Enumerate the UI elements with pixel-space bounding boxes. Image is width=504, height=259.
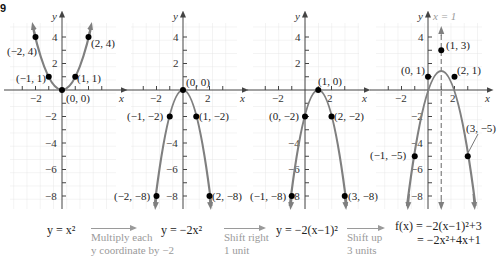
transform-step-1-line2: y coordinate by −2	[91, 244, 174, 257]
svg-text:−8: −8	[45, 190, 57, 202]
svg-text:x: x	[239, 92, 245, 104]
point-label: (2, 1)	[457, 64, 481, 77]
svg-text:−2: −2	[45, 110, 57, 122]
transform-step-2-line1: Shift right	[224, 231, 269, 244]
point	[46, 74, 52, 80]
point-label: (3, −5)	[466, 122, 496, 135]
panel-1-graph: x y −2 4 2 −2 −4 −6 −8 (−2, 4) (−1, 1) (…	[4, 10, 124, 209]
point-label: (0, 1)	[401, 64, 425, 77]
transform-arrow-3	[347, 228, 383, 229]
point-label: (−1, −5)	[370, 149, 407, 162]
point	[167, 114, 173, 120]
point-label: (2, −2)	[334, 110, 364, 123]
transform-step-3: Shift up 3 units	[347, 231, 382, 257]
point	[302, 114, 308, 120]
svg-text:−2: −2	[150, 92, 162, 104]
svg-text:x: x	[484, 92, 490, 104]
svg-text:2: 2	[295, 57, 301, 69]
transform-step-3-line1: Shift up	[347, 231, 382, 244]
point-label: (1, −2)	[199, 110, 229, 123]
transform-step-2: Shift right 1 unit	[224, 231, 269, 257]
axis-of-symmetry-label: x = 1	[432, 10, 456, 22]
svg-text:x: x	[361, 92, 367, 104]
equation-panel-1: y = x²	[47, 223, 75, 238]
svg-text:4: 4	[173, 31, 179, 43]
point-label: (0, 0)	[66, 92, 90, 105]
svg-text:−2: −2	[272, 92, 284, 104]
point	[425, 74, 431, 80]
equation-panel-4-line2: = −2x²+4x+1	[417, 233, 481, 248]
point	[342, 193, 348, 199]
svg-text:4: 4	[52, 31, 58, 43]
svg-text:−4: −4	[45, 137, 57, 149]
panel-3-graph: x y −2 2 4 2 −4 −6 −8 (1, 0) (0, −2) (2,…	[247, 10, 378, 209]
point-label: (1, 1)	[77, 72, 101, 85]
point-label: (−2, 4)	[7, 45, 37, 58]
point	[33, 34, 39, 40]
svg-text:2: 2	[52, 57, 58, 69]
point	[289, 193, 295, 199]
panel-2-graph: x y −2 2 4 2 −4 −6 −8 (0, 0) (−1, −2) (1…	[114, 10, 245, 209]
point-label: (0, −2)	[269, 110, 299, 123]
svg-text:4: 4	[418, 31, 424, 43]
point-label: (3, −8)	[348, 190, 378, 203]
point-label: (−2, −8)	[114, 190, 151, 203]
svg-text:−2: −2	[395, 92, 407, 104]
point	[154, 193, 160, 199]
svg-text:y: y	[172, 10, 178, 22]
transform-step-1-line1: Multiply each	[91, 231, 174, 244]
svg-text:y: y	[417, 10, 423, 22]
point-label: (0, 0)	[186, 76, 210, 89]
svg-text:4: 4	[295, 31, 301, 43]
y-axis-label: y	[51, 10, 57, 22]
transform-step-2-line2: 1 unit	[224, 244, 269, 257]
point-label: (2, −8)	[212, 190, 242, 203]
svg-text:−6: −6	[45, 163, 57, 175]
x-axis-label: x	[118, 92, 124, 104]
point-label: (−1, −8)	[250, 190, 287, 203]
svg-text:−6: −6	[166, 163, 178, 175]
svg-text:y: y	[294, 10, 300, 22]
point-label: (1, 0)	[318, 75, 342, 88]
point-label: (−1, 1)	[16, 72, 46, 85]
svg-text:2: 2	[205, 92, 211, 104]
point-label: (2, 4)	[91, 37, 115, 50]
point	[412, 153, 418, 159]
svg-text:−8: −8	[411, 190, 423, 202]
equation-panel-3: y = −2(x−1)²	[276, 223, 338, 238]
transform-step-3-line2: 3 units	[347, 244, 382, 257]
vertex-point	[438, 47, 444, 53]
transform-arrow-1	[91, 228, 135, 229]
svg-text:−8: −8	[166, 190, 178, 202]
transform-arrow-2	[224, 228, 264, 229]
svg-text:2: 2	[173, 57, 179, 69]
equation-panel-4-line1: f(x) = −2(x−1)²+3	[395, 219, 482, 234]
transform-step-1: Multiply each y coordinate by −2	[91, 231, 174, 257]
vertex-point	[315, 87, 321, 93]
svg-text:−4: −4	[166, 137, 178, 149]
panel-4-graph: x = 1 x y −2 2 4 −2 −4 −6 −8 (1, 3) (0, …	[370, 10, 496, 209]
vertex-point	[59, 87, 65, 93]
point-label: (1, 3)	[446, 39, 470, 52]
point-label: (−1, −2)	[127, 110, 164, 123]
svg-text:−2: −2	[30, 92, 42, 104]
point	[465, 153, 471, 159]
